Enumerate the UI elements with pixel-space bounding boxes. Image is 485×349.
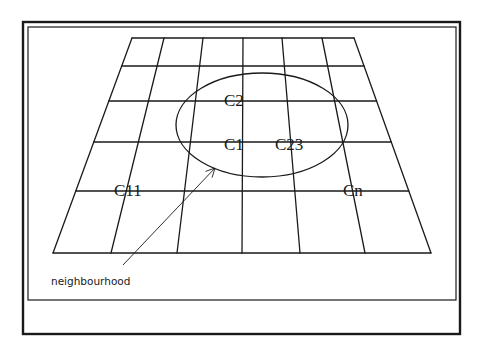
grid-vertical-line [53,38,132,253]
cell-labels: C2 C1 C23 C11 Cn [114,91,363,200]
neighbourhood-label: neighbourhood [51,275,130,287]
grid-vertical-line [177,38,203,253]
neighbourhood-ellipse [176,73,348,177]
cell-label-c11: C11 [114,181,142,200]
grid-vertical-line [354,38,431,253]
cell-label-cn: Cn [343,181,363,200]
neighbourhood-diagram: C2 C1 C23 C11 Cn neighbourhood [0,0,485,349]
cell-label-c23: C23 [275,135,303,154]
grid-vertical-line [322,38,365,253]
grid-vertical-line [111,38,164,253]
cell-label-c1: C1 [224,135,244,154]
cell-label-c2: C2 [224,91,244,110]
outer-frame [23,22,460,334]
